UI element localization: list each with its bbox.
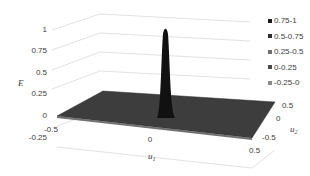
- svg-text:0.25: 0.25: [31, 89, 47, 98]
- svg-text:0.5: 0.5: [249, 146, 261, 155]
- legend-swatch-icon: [268, 81, 272, 85]
- surface-chart: 1 0.75 0.5 0.25 0 -0.25 E -0.5 0 u1 0.5 …: [0, 0, 310, 176]
- svg-text:0: 0: [43, 111, 48, 120]
- z-axis-title: E: [17, 78, 24, 88]
- svg-text:0.75: 0.75: [31, 46, 47, 55]
- y-axis-title: u2: [290, 124, 298, 135]
- x-axis-ticks: -0.5 0: [44, 125, 153, 144]
- legend-swatch-icon: [268, 50, 272, 54]
- svg-text:-0.5: -0.5: [262, 133, 276, 142]
- legend-item: -0.25-0: [268, 75, 303, 91]
- legend: 0.75-1 0.5-0.75 0.25-0.5 0-0.25 -0.25-0: [268, 13, 303, 91]
- svg-text:1: 1: [43, 25, 48, 34]
- legend-swatch-icon: [268, 34, 272, 38]
- legend-item: 0-0.25: [268, 60, 303, 76]
- legend-item: 0.25-0.5: [268, 44, 303, 60]
- legend-item: 0.75-1: [268, 13, 303, 29]
- svg-text:-0.5: -0.5: [44, 125, 58, 134]
- svg-text:0.5: 0.5: [36, 68, 48, 77]
- legend-item: 0.5-0.75: [268, 29, 303, 45]
- legend-swatch-icon: [268, 19, 272, 23]
- svg-text:0: 0: [276, 114, 281, 123]
- svg-text:0.5: 0.5: [282, 101, 294, 110]
- x-axis-title: u1: [148, 151, 156, 162]
- svg-text:0: 0: [148, 135, 153, 144]
- svg-text:-0.25: -0.25: [29, 133, 48, 142]
- legend-swatch-icon: [268, 65, 272, 69]
